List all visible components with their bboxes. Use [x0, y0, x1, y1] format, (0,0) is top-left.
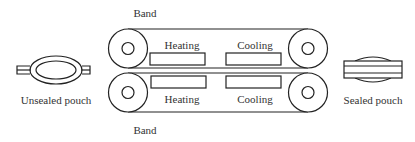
- bottom-left-roller-icon: [109, 73, 148, 112]
- top-band-assembly: [109, 29, 328, 68]
- bottom-heating-block: [151, 76, 206, 88]
- bottom-right-roller-icon: [289, 73, 328, 112]
- top-band-label: Band: [133, 7, 157, 19]
- bottom-band-assembly: [109, 73, 328, 112]
- top-cooling-block: [226, 53, 281, 65]
- bottom-cooling-label: Cooling: [237, 93, 273, 105]
- sealed-pouch-label: Sealed pouch: [344, 94, 403, 106]
- band-sealer-diagram: Band Heating Cooling Heating Cooling Ban…: [0, 0, 415, 142]
- top-heating-block: [150, 53, 205, 65]
- sealed-pouch-icon: [344, 57, 402, 82]
- bottom-cooling-block: [226, 76, 281, 88]
- top-left-roller-icon: [109, 29, 148, 68]
- top-right-roller-icon: [289, 29, 328, 68]
- top-cooling-label: Cooling: [237, 39, 273, 51]
- bottom-heating-label: Heating: [165, 93, 200, 105]
- unsealed-pouch-icon: [17, 56, 90, 84]
- unsealed-pouch-label: Unsealed pouch: [21, 94, 92, 106]
- bottom-band-label: Band: [133, 124, 157, 136]
- top-heating-label: Heating: [165, 39, 200, 51]
